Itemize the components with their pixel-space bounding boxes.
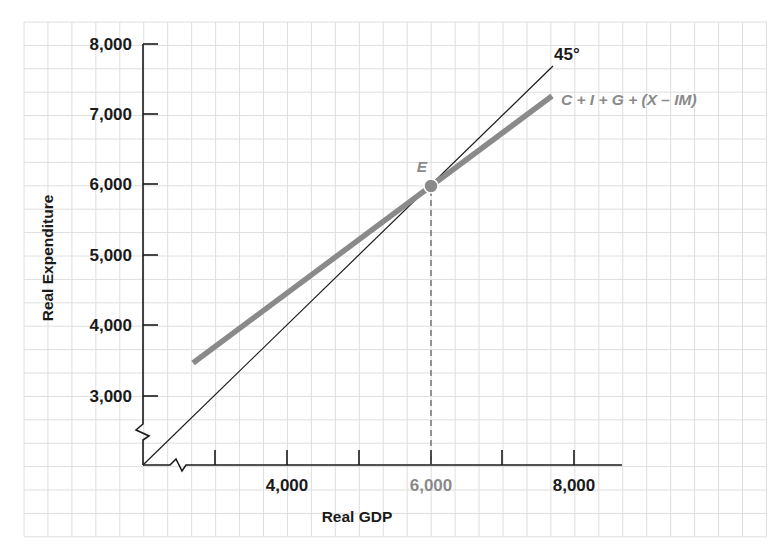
y-tick-8000: 8,000	[89, 35, 132, 54]
aggregate-expenditure-line	[193, 96, 552, 363]
x-axis	[143, 450, 622, 471]
y-tick-3000: 3,000	[89, 387, 132, 406]
label-point-e: E	[417, 158, 428, 175]
label-45-degree: 45°	[554, 45, 580, 64]
x-tick-8000: 8,000	[553, 476, 596, 495]
chart-canvas: 8,000 7,000 6,000 5,000 4,000 3,000 4,00…	[0, 0, 772, 556]
x-tick-6000: 6,000	[410, 476, 453, 495]
line-45-degree	[143, 66, 553, 465]
y-tick-7000: 7,000	[89, 105, 132, 124]
y-axis-title: Real Expenditure	[39, 194, 56, 321]
y-tick-5000: 5,000	[89, 246, 132, 265]
y-axis	[136, 44, 158, 465]
x-tick-4000: 4,000	[266, 476, 309, 495]
x-axis-title: Real GDP	[322, 508, 393, 525]
equilibrium-point-e	[424, 179, 438, 193]
y-tick-4000: 4,000	[89, 316, 132, 335]
y-tick-6000: 6,000	[89, 175, 132, 194]
label-aggregate-expenditure: C + I + G + (X – IM)	[561, 91, 697, 108]
